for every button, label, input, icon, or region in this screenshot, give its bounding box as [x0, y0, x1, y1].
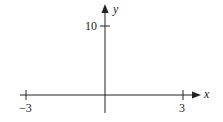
x-axis-label: x	[203, 87, 210, 101]
x-tick-label-neg3: −3	[19, 101, 32, 115]
coordinate-axes-diagram: −3 3 10 x y	[0, 0, 223, 122]
y-axis-arrow-icon	[102, 4, 109, 13]
y-axis-label: y	[112, 2, 119, 16]
x-axis-arrow-icon	[192, 92, 201, 99]
x-tick-label-3: 3	[179, 101, 185, 115]
y-tick-label-10: 10	[85, 19, 97, 33]
